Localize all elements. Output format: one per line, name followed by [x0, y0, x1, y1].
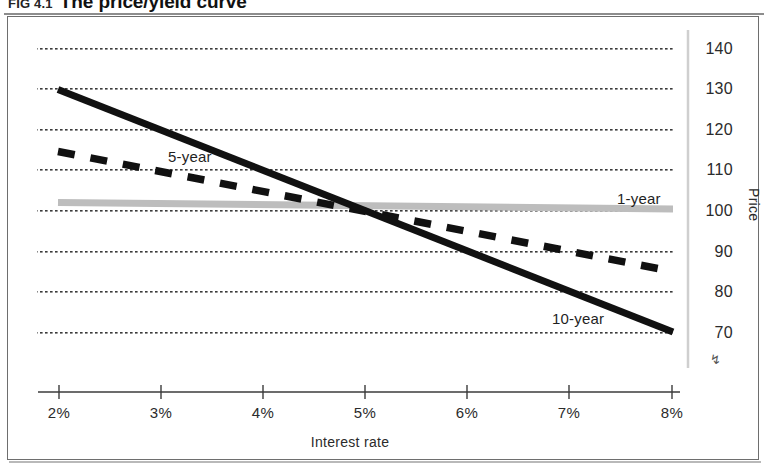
series-label-10-year: 10-year — [552, 310, 604, 327]
x-axis-title: Interest rate — [0, 434, 700, 450]
title-divider — [4, 13, 764, 15]
y-tick-110: 110 — [693, 161, 733, 179]
x-tick-6pct: 6% — [439, 404, 495, 421]
y-tick-90: 90 — [693, 243, 733, 261]
series-label-5-year: 5-year — [168, 148, 212, 165]
y-tick-140: 140 — [693, 40, 733, 58]
y-axis-tail-glyph: ↯ — [710, 352, 721, 367]
x-tick-4pct: 4% — [235, 404, 291, 421]
y-tick-130: 130 — [693, 80, 733, 98]
x-tick-8pct: 8% — [644, 404, 700, 421]
y-tick-120: 120 — [693, 121, 733, 139]
y-tick-100: 100 — [693, 202, 733, 220]
series-label-1-year: 1-year — [617, 190, 661, 207]
figure-number: FIG 4.1 — [8, 0, 53, 11]
y-tick-80: 80 — [693, 283, 733, 301]
y-axis-title: Price — [746, 188, 762, 221]
x-tick-3pct: 3% — [133, 404, 189, 421]
y-tick-70: 70 — [693, 324, 733, 342]
figure-frame — [7, 16, 759, 460]
x-tick-5pct: 5% — [337, 404, 393, 421]
figure-title-text: The price/yield curve — [60, 0, 247, 13]
x-tick-7pct: 7% — [541, 404, 597, 421]
x-tick-2pct: 2% — [31, 404, 87, 421]
figure-frame-shadow — [9, 461, 761, 463]
